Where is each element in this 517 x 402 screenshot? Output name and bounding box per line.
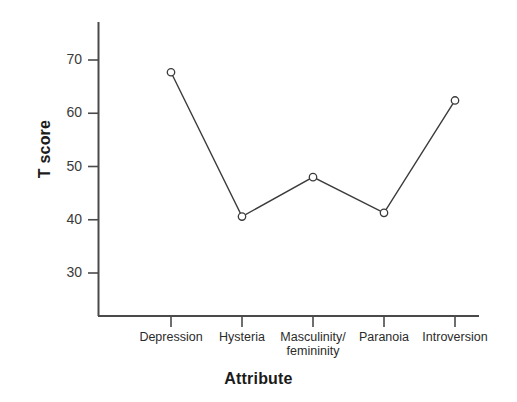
x-axis-ticks [171, 316, 455, 327]
y-tick-label: 30 [48, 264, 82, 280]
data-point-marker [238, 213, 245, 220]
x-tick-label: Introversion [408, 330, 502, 344]
y-tick-label: 50 [48, 158, 82, 174]
y-axis-ticks [88, 60, 99, 273]
y-tick-label: 70 [48, 51, 82, 67]
data-point-marker [167, 69, 174, 76]
data-series-line [171, 72, 455, 216]
x-axis-title: Attribute [0, 370, 517, 388]
data-point-marker [380, 209, 387, 216]
data-point-marker [309, 173, 316, 180]
y-axis-title: T score [36, 114, 54, 184]
line-chart: T score Attribute 3040506070 DepressionH… [0, 0, 517, 402]
y-tick-label: 40 [48, 211, 82, 227]
y-tick-label: 60 [48, 104, 82, 120]
data-point-markers [167, 69, 458, 221]
data-point-marker [451, 97, 458, 104]
